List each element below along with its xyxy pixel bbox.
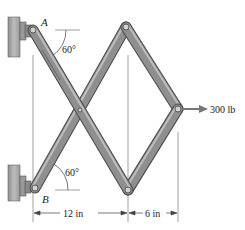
label-dim-6in: 6 in bbox=[145, 208, 160, 219]
label-force: 300 lb bbox=[210, 104, 235, 115]
force-arrow bbox=[182, 105, 208, 113]
wall-support-top bbox=[8, 17, 31, 57]
members bbox=[33, 25, 180, 190]
pin-right bbox=[175, 106, 181, 112]
wall-support-bottom bbox=[8, 165, 31, 201]
label-pin-b: B bbox=[42, 193, 49, 205]
label-pin-a: A bbox=[40, 16, 48, 28]
pin-center bbox=[78, 108, 82, 112]
member-bottom-to-right bbox=[126, 107, 178, 190]
label-angle-top: 60° bbox=[62, 44, 76, 55]
pin-b bbox=[32, 185, 38, 191]
pin-top bbox=[123, 24, 129, 30]
pin-a bbox=[30, 27, 36, 33]
scissor-linkage-diagram: A B 60° 60° 300 lb 12 in 6 in bbox=[0, 0, 245, 230]
pin-bottom bbox=[125, 187, 131, 193]
label-angle-bottom: 60° bbox=[65, 167, 79, 178]
member-top-to-right bbox=[126, 25, 180, 109]
label-dim-12in: 12 in bbox=[63, 208, 83, 219]
